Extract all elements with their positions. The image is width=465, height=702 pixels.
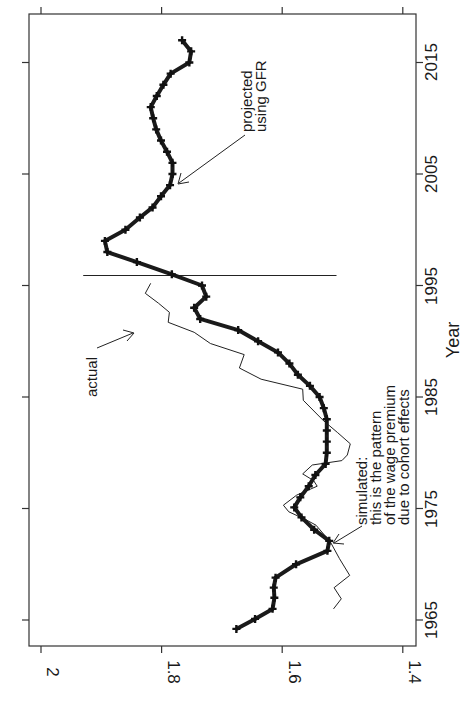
year-tick-label: 1985 (422, 378, 441, 416)
actual-series-line (145, 283, 350, 609)
plus-marker-icon (323, 449, 331, 457)
simulated-series-markers (101, 36, 333, 633)
year-tick-label: 2015 (422, 43, 441, 81)
year-axis-tick-labels: 1965 1975 1985 1995 2005 2015 (422, 43, 441, 639)
annotation-text: actual (83, 357, 100, 397)
year-tick-label: 2005 (422, 155, 441, 193)
year-tick-label: 1965 (422, 601, 441, 639)
annotation-text: using GFR (252, 60, 269, 132)
plus-marker-icon (323, 438, 331, 446)
value-tick-label: 1.4 (405, 660, 424, 684)
plus-marker-icon (168, 170, 176, 178)
annotation-text: due to cohort effects (395, 389, 412, 525)
axis-ticks (22, 7, 423, 653)
x-axis-title: Year (443, 322, 463, 358)
annotation-simulated: simulated: this is the pattern of the wa… (333, 385, 412, 544)
rotated-line-chart: 2 1.8 1.6 1.4 1965 1975 1985 1995 2005 2… (0, 0, 465, 702)
plot-frame (29, 14, 416, 646)
arrowhead-icon (123, 330, 134, 341)
annotation-actual: actual (83, 330, 134, 397)
annotation-projected: projected using GFR (178, 60, 269, 184)
plus-marker-icon (270, 594, 278, 602)
value-tick-label: 2 (43, 667, 62, 676)
plus-marker-icon (270, 584, 278, 592)
simulated-series-line (105, 40, 329, 629)
plus-marker-icon (323, 426, 331, 434)
year-tick-label: 1975 (422, 490, 441, 528)
value-tick-label: 1.6 (285, 660, 304, 684)
annotation-arrow-line (179, 135, 245, 183)
value-axis-tick-labels: 2 1.8 1.6 1.4 (43, 660, 424, 684)
year-tick-label: 1995 (422, 267, 441, 305)
value-tick-label: 1.8 (164, 660, 183, 684)
